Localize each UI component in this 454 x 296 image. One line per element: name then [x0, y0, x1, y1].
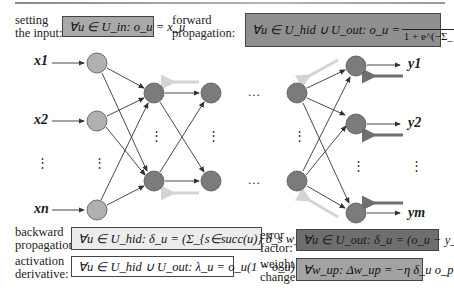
ellipsis-horizontal: ... — [248, 84, 261, 100]
input-label-x1: x1 — [34, 53, 48, 69]
input-node — [87, 200, 107, 220]
backward-arrows-dark — [374, 76, 403, 203]
output-node — [346, 203, 366, 223]
ellipsis-vertical: ⋮ — [93, 155, 107, 171]
ellipsis-vertical: ⋮ — [293, 128, 307, 144]
input-node — [87, 111, 107, 131]
edges-output-layer — [303, 70, 350, 208]
hidden-nodes — [144, 83, 307, 191]
ellipsis-vertical: ⋮ — [352, 158, 366, 174]
ellipsis-horizontal: ... — [248, 172, 261, 188]
network-diagram — [0, 0, 454, 296]
output-node — [346, 114, 366, 134]
input-arrows — [52, 63, 84, 210]
input-node — [87, 53, 107, 73]
hidden-node — [144, 171, 164, 191]
ellipsis-vertical: ⋮ — [410, 158, 424, 174]
output-label-y2: y2 — [408, 115, 421, 131]
ellipsis-vertical: ⋮ — [150, 128, 164, 144]
input-label-x2: x2 — [34, 112, 48, 128]
output-label-ym: ym — [408, 205, 425, 221]
output-label-y1: y1 — [408, 56, 421, 72]
ellipsis-vertical: ⋮ — [207, 128, 221, 144]
hidden-node — [201, 83, 221, 103]
edges-layer2 — [160, 93, 204, 181]
ellipsis-vertical: ⋮ — [36, 155, 50, 171]
hidden-node — [287, 83, 307, 103]
input-label-xn: xn — [34, 201, 49, 217]
edges-layer1 — [101, 68, 148, 205]
output-nodes — [346, 56, 366, 223]
hidden-node — [201, 171, 221, 191]
hidden-node — [144, 83, 164, 103]
output-arrows — [367, 65, 400, 213]
output-node — [346, 56, 366, 76]
hidden-node — [287, 171, 307, 191]
